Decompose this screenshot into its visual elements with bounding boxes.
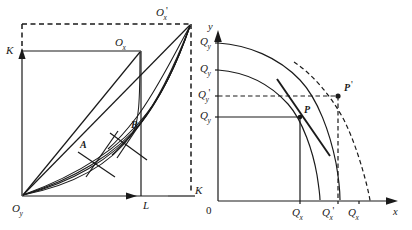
label-origin-Ox-sub: x bbox=[122, 43, 127, 52]
bottom-horizontal-arrowhead bbox=[126, 192, 137, 199]
label-point-P-base: P bbox=[304, 104, 311, 115]
diagonal-to-Ox bbox=[23, 52, 140, 195]
ppf-y-tick-label-3-prime: ' bbox=[209, 87, 211, 98]
ppf-y-tick-label-2: Q y bbox=[200, 62, 212, 78]
ppf-x-tick-label-1-sub: x bbox=[299, 213, 304, 222]
label-origin-Oy: O y bbox=[12, 202, 24, 218]
label-K-top-left: K bbox=[5, 44, 14, 56]
label-origin-Ox: O x bbox=[115, 36, 127, 52]
left-panel-group: K K L O y O x O x ' A B bbox=[5, 5, 203, 218]
label-point-A: A bbox=[79, 139, 87, 150]
ppf-x-tick-label-3-sub: x bbox=[355, 213, 360, 222]
tangent-line-at-A-1 bbox=[78, 152, 115, 177]
ppf-y-axis-label: y bbox=[207, 21, 213, 32]
figure-svg: K K L O y O x O x ' A B bbox=[0, 0, 412, 230]
label-point-P: P bbox=[304, 104, 311, 115]
ppf-y-tick-label-1-sub: y bbox=[207, 42, 212, 51]
label-origin-Oy-sub: y bbox=[19, 209, 24, 218]
ppf-x-tick-label-2: Q x ' bbox=[322, 205, 335, 222]
ppf-y-tick-label-4: Q y bbox=[200, 109, 212, 125]
figure-container: K K L O y O x O x ' A B bbox=[0, 0, 412, 230]
label-origin-Ox-prime: O x ' bbox=[156, 5, 168, 22]
point-marker-P bbox=[298, 115, 303, 120]
ppf-y-axis-arrowhead bbox=[214, 30, 222, 42]
ppf-y-tick-label-1: Q y bbox=[200, 35, 212, 51]
ppf-y-tick-label-4-sub: y bbox=[207, 116, 212, 125]
label-point-P-prime-base: P bbox=[344, 82, 351, 93]
ppf-origin-label: 0 bbox=[206, 204, 212, 216]
ppf-outer-curve bbox=[218, 43, 340, 200]
ppf-x-tick-label-3: Q x bbox=[348, 206, 360, 222]
label-origin-Ox-prime-mark: ' bbox=[166, 5, 168, 16]
label-point-P-prime: P ' bbox=[344, 79, 353, 93]
ppf-x-axis-label: x bbox=[392, 206, 398, 217]
ppf-x-tick-label-2-prime: ' bbox=[333, 205, 335, 216]
quantity-rectangle-Q bbox=[218, 117, 300, 201]
ppf-inner-curve bbox=[218, 70, 320, 200]
label-K-bottom-right: K bbox=[194, 184, 203, 196]
ppf-y-tick-label-2-sub: y bbox=[207, 69, 212, 78]
ppf-x-tick-label-1: Q x bbox=[292, 206, 304, 222]
ppf-x-axis-arrowhead bbox=[386, 197, 398, 205]
point-marker-P-prime bbox=[335, 93, 340, 98]
label-point-P-prime-mark2: ' bbox=[351, 79, 353, 90]
right-panel-group: y x 0 Q y Q y Q y ' Q y bbox=[198, 21, 398, 222]
label-point-B: B bbox=[130, 119, 138, 130]
ppf-shifted-dashed-curve bbox=[294, 62, 370, 201]
ppf-y-tick-label-3: Q y ' bbox=[198, 87, 211, 104]
label-L-bottom: L bbox=[142, 199, 149, 211]
